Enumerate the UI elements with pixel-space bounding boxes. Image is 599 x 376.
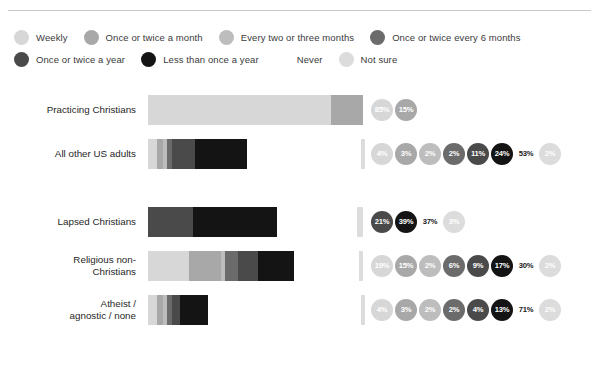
value-bubble-never[interactable]: 30%: [515, 255, 537, 277]
bar-segment-less-than-once-year[interactable]: [195, 139, 247, 169]
bar-segment-once-twice-month[interactable]: [331, 95, 363, 125]
value-bubble-weekly[interactable]: 85%: [371, 99, 393, 121]
bar-segment-less-than-once-year[interactable]: [193, 207, 277, 237]
value-bubble-label: 15%: [399, 106, 414, 114]
bar-segment-once-twice-month[interactable]: [189, 251, 221, 281]
bar-segment-never[interactable]: [247, 139, 361, 169]
legend-item-once-twice-year[interactable]: Once or twice a year: [14, 52, 125, 67]
stacked-bar: [148, 295, 365, 325]
legend-item-every-two-three-months[interactable]: Every two or three months: [219, 30, 354, 45]
legend-label: Less than once a year: [163, 54, 259, 65]
bar-segment-never[interactable]: [294, 251, 359, 281]
row-label: Practicing Christians: [0, 104, 148, 116]
value-bubble-every-two-three-months[interactable]: 2%: [419, 143, 441, 165]
legend-item-not-sure[interactable]: Not sure: [339, 52, 398, 67]
value-bubbles: 19%15%2%6%9%17%30%2%: [371, 251, 563, 281]
legend-item-weekly[interactable]: Weekly: [14, 30, 68, 45]
value-bubble-once-twice-6-months[interactable]: 2%: [443, 299, 465, 321]
value-bubbles: 4%3%2%2%4%13%71%2%: [371, 295, 563, 325]
value-bubble-once-twice-6-months[interactable]: 6%: [443, 255, 465, 277]
bar-segment-never[interactable]: [208, 295, 361, 325]
row-label: Atheist / agnostic / none: [0, 298, 148, 322]
value-bubble-label: 85%: [375, 106, 390, 114]
value-bubble-never[interactable]: 71%: [515, 299, 537, 321]
value-bubbles: 4%3%2%2%11%24%53%2%: [371, 139, 563, 169]
value-bubble-every-two-three-months[interactable]: 2%: [419, 255, 441, 277]
bar-segment-not-sure[interactable]: [359, 251, 363, 281]
bar-segment-not-sure[interactable]: [361, 295, 365, 325]
chart-row: Practicing Christians85%15%: [0, 88, 599, 132]
value-bubble-weekly[interactable]: 4%: [371, 299, 393, 321]
header-divider: [8, 10, 591, 11]
value-bubble-once-twice-year[interactable]: 9%: [467, 255, 489, 277]
chart-row: All other US adults4%3%2%2%11%24%53%2%: [0, 132, 599, 176]
value-bubble-not-sure[interactable]: 2%: [539, 143, 561, 165]
bar-segment-not-sure[interactable]: [361, 139, 365, 169]
legend-label: Once or twice a month: [106, 32, 203, 43]
row-label: Lapsed Christians: [0, 216, 148, 228]
value-bubble-once-twice-month[interactable]: 3%: [395, 143, 417, 165]
legend-label: Once or twice a year: [36, 54, 125, 65]
bar-segment-once-twice-year[interactable]: [148, 207, 193, 237]
legend-item-once-twice-month[interactable]: Once or twice a month: [84, 30, 203, 45]
value-bubble-label: 3%: [401, 306, 412, 314]
value-bubble-once-twice-year[interactable]: 11%: [467, 143, 489, 165]
value-bubble-less-than-once-year[interactable]: 39%: [395, 211, 417, 233]
value-bubble-weekly[interactable]: 4%: [371, 143, 393, 165]
value-bubble-once-twice-6-months[interactable]: 2%: [443, 143, 465, 165]
legend-item-never[interactable]: Never: [275, 52, 323, 67]
legend-label: Not sure: [361, 54, 398, 65]
bar-segment-not-sure[interactable]: [357, 207, 363, 237]
bar-segment-weekly[interactable]: [148, 295, 157, 325]
value-bubble-never[interactable]: 53%: [515, 143, 537, 165]
value-bubble-label: 30%: [519, 262, 534, 270]
value-bubble-label: 2%: [545, 150, 556, 158]
value-bubble-once-twice-month[interactable]: 3%: [395, 299, 417, 321]
legend-swatch-once-twice-month-icon: [84, 30, 99, 45]
legend-swatch-once-twice-year-icon: [14, 52, 29, 67]
value-bubble-less-than-once-year[interactable]: 24%: [491, 143, 513, 165]
bar-segment-never[interactable]: [277, 207, 357, 237]
value-bubble-less-than-once-year[interactable]: 13%: [491, 299, 513, 321]
value-bubble-label: 2%: [425, 306, 436, 314]
value-bubble-once-twice-month[interactable]: 15%: [395, 255, 417, 277]
value-bubble-once-twice-year[interactable]: 4%: [467, 299, 489, 321]
bar-segment-once-twice-6-months[interactable]: [225, 251, 238, 281]
value-bubble-label: 19%: [375, 262, 390, 270]
legend-item-once-twice-6-months[interactable]: Once or twice every 6 months: [370, 30, 520, 45]
legend-label: Weekly: [36, 32, 68, 43]
legend-swatch-once-twice-6-months-icon: [370, 30, 385, 45]
value-bubble-not-sure[interactable]: 2%: [539, 255, 561, 277]
value-bubble-label: 71%: [519, 306, 534, 314]
bar-segment-weekly[interactable]: [148, 95, 331, 125]
stacked-bar: [148, 207, 363, 237]
chart-page: WeeklyOnce or twice a monthEvery two or …: [0, 0, 599, 376]
chart-row: Religious non- Christians19%15%2%6%9%17%…: [0, 244, 599, 288]
bar-segment-once-twice-year[interactable]: [238, 251, 257, 281]
bar-segment-weekly[interactable]: [148, 139, 157, 169]
value-bubble-not-sure[interactable]: 2%: [539, 299, 561, 321]
value-bubble-every-two-three-months[interactable]: 2%: [419, 299, 441, 321]
value-bubble-label: 2%: [449, 150, 460, 158]
value-bubble-never[interactable]: 37%: [419, 211, 441, 233]
value-bubble-label: 4%: [473, 306, 484, 314]
stacked-bar-area: [148, 251, 363, 281]
value-bubble-once-twice-month[interactable]: 15%: [395, 99, 417, 121]
value-bubble-not-sure[interactable]: 3%: [443, 211, 465, 233]
value-bubble-label: 4%: [377, 150, 388, 158]
value-bubble-once-twice-year[interactable]: 21%: [371, 211, 393, 233]
value-bubbles: 21%39%37%3%: [371, 207, 467, 237]
bar-segment-less-than-once-year[interactable]: [258, 251, 295, 281]
legend-item-less-than-once-year[interactable]: Less than once a year: [141, 52, 259, 67]
value-bubble-label: 39%: [399, 218, 414, 226]
value-bubble-less-than-once-year[interactable]: 17%: [491, 255, 513, 277]
value-bubble-label: 2%: [545, 262, 556, 270]
bar-segment-less-than-once-year[interactable]: [180, 295, 208, 325]
bar-segment-once-twice-year[interactable]: [172, 139, 196, 169]
bar-segment-weekly[interactable]: [148, 251, 189, 281]
bar-segment-once-twice-year[interactable]: [172, 295, 181, 325]
legend-label: Once or twice every 6 months: [392, 32, 520, 43]
legend-swatch-not-sure-icon: [339, 52, 354, 67]
value-bubble-weekly[interactable]: 19%: [371, 255, 393, 277]
value-bubble-label: 2%: [425, 150, 436, 158]
